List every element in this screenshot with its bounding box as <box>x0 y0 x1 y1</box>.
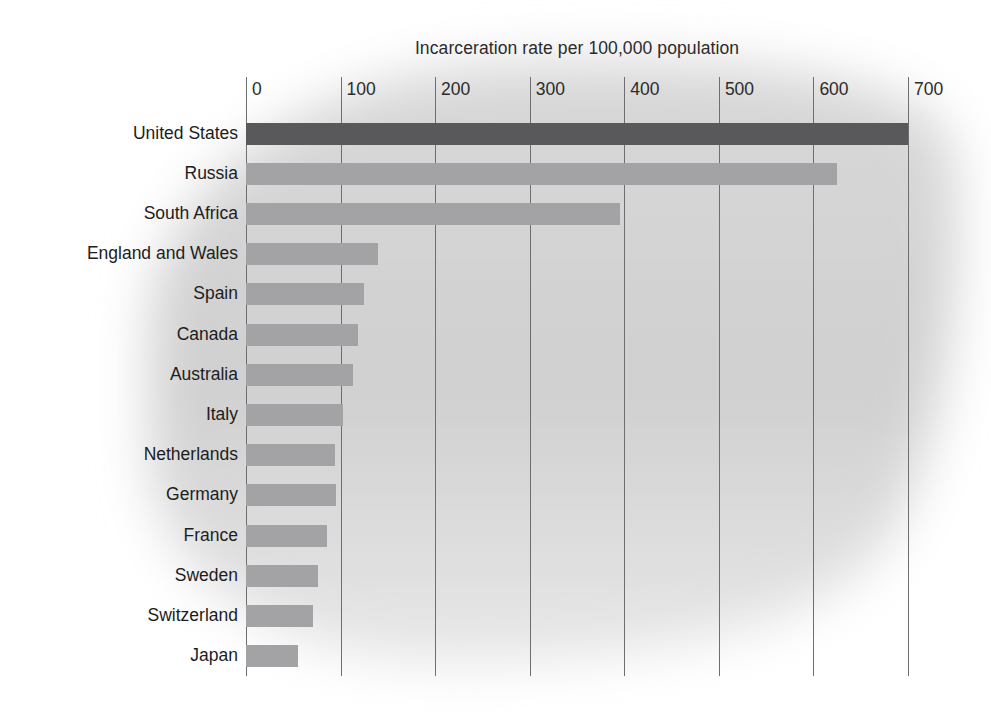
bar-italy <box>246 404 343 426</box>
bar-england-and-wales <box>246 243 378 265</box>
plot-area: 0 100 200 300 400 500 600 700 United Sta… <box>246 77 908 676</box>
category-label: Germany <box>166 483 238 506</box>
category-label: United States <box>133 122 238 145</box>
category-label: Italy <box>206 403 238 426</box>
x-tick-label-700: 700 <box>908 76 943 102</box>
bar-japan <box>246 645 298 667</box>
category-label: Australia <box>170 363 238 386</box>
bar-switzerland <box>246 605 313 627</box>
category-label: Canada <box>177 323 238 346</box>
bar-france <box>246 525 327 547</box>
bar-united-states <box>246 123 908 145</box>
category-label: Russia <box>185 162 239 185</box>
bar-rows: United States Russia South Africa Englan… <box>246 77 908 676</box>
bar-spain <box>246 283 364 305</box>
bar-germany <box>246 484 336 506</box>
category-label: England and Wales <box>87 242 238 265</box>
chart-title: Incarceration rate per 100,000 populatio… <box>246 38 908 59</box>
category-label: Japan <box>190 644 238 667</box>
bar-chart: Incarceration rate per 100,000 populatio… <box>0 0 991 717</box>
category-label: Netherlands <box>144 443 238 466</box>
category-label: Spain <box>193 282 238 305</box>
bar-russia <box>246 163 837 185</box>
category-label: South Africa <box>144 202 238 225</box>
bar-australia <box>246 364 353 386</box>
category-label: France <box>184 524 238 547</box>
bar-south-africa <box>246 203 620 225</box>
gridline-700 <box>908 77 909 676</box>
bar-canada <box>246 324 358 346</box>
bar-sweden <box>246 565 318 587</box>
category-label: Sweden <box>175 564 238 587</box>
bar-netherlands <box>246 444 335 466</box>
category-label: Switzerland <box>148 604 238 627</box>
